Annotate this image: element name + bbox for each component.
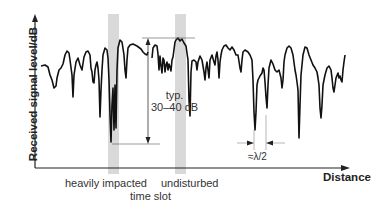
time-slot-label: time slot [130,190,171,202]
lambda-arrow-right-icon [266,141,273,146]
y-axis-label: Received signal level/dB [27,19,39,169]
range-annotation: typ. 30–40 dB [151,89,198,113]
x-axis-label: Distance [323,171,371,183]
lambda-arrow-left-icon [247,141,254,146]
heavily-impacted-label: heavily impacted [65,177,147,189]
range-arrow-up-icon [146,38,151,45]
range-annotation-line1: typ. [151,89,198,101]
signal-trace [41,40,148,142]
range-annotation-line2: 30–40 dB [151,101,198,113]
undisturbed-label: undisturbed [161,177,219,189]
range-arrow-down-icon [146,137,151,144]
half-wavelength-label: ≈λ/2 [248,151,267,162]
